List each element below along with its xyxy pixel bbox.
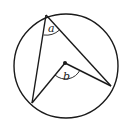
circle-angle-diagram: a b — [0, 0, 127, 127]
circle — [14, 14, 118, 118]
chord-top-to-left — [32, 15, 46, 103]
center-point — [63, 61, 67, 65]
radius-to-right — [65, 63, 111, 86]
label-a: a — [48, 22, 55, 35]
label-b: b — [63, 70, 70, 83]
